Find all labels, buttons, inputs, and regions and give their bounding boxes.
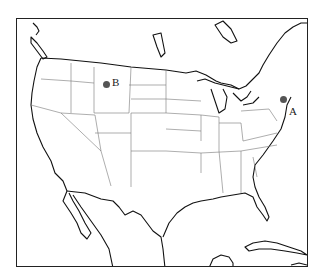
- label-b: B: [112, 77, 119, 88]
- map-frame: B A: [16, 18, 308, 267]
- marker-a: [280, 96, 287, 103]
- marker-b: [103, 81, 110, 88]
- us-outline-map: [17, 19, 308, 267]
- label-a: A: [289, 106, 297, 117]
